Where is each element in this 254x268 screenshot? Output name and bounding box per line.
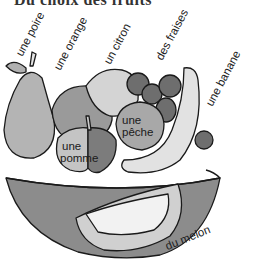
label-peche-line2: pêche bbox=[122, 126, 153, 138]
label-peche-line1: une bbox=[122, 114, 153, 126]
label-pomme: une pomme bbox=[60, 140, 98, 164]
label-pomme-line2: pomme bbox=[60, 152, 98, 164]
label-peche: une pêche bbox=[122, 114, 153, 138]
label-pomme-line1: une bbox=[60, 140, 98, 152]
pear bbox=[4, 52, 55, 158]
fruit-bowl-illustration: Du choix des fruits bbox=[0, 0, 254, 268]
